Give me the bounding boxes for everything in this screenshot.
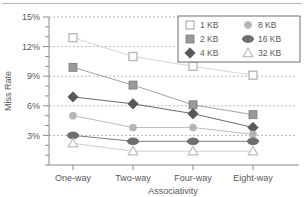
datapoint-32-kb-four-way — [188, 146, 198, 154]
legend-label-4-kb: 4 KB — [200, 48, 219, 58]
y-tick-label-6%: 6% — [27, 101, 40, 111]
series-8-kb — [73, 116, 253, 135]
series-markers-4-kb — [68, 92, 258, 133]
top-divider-rule — [2, 3, 302, 4]
filled-square-marker-icon — [186, 35, 194, 43]
series-2-kb — [73, 67, 253, 114]
series-line-2-kb — [73, 67, 253, 114]
datapoint-8-kb-eight-way — [249, 131, 256, 138]
datapoint-4-kb-one-way — [68, 92, 78, 102]
datapoint-2-kb-two-way — [129, 81, 137, 89]
legend-background — [178, 16, 300, 62]
datapoint-16-kb-four-way — [187, 138, 198, 145]
datapoint-1-kb-eight-way — [249, 71, 257, 79]
open-square-marker-icon — [186, 21, 194, 29]
y-axis-title: Miss Rate — [3, 71, 13, 111]
chart-legend: 1 KB2 KB4 KB8 KB16 KB32 KB — [178, 16, 300, 62]
series-16-kb — [73, 135, 253, 141]
legend-label-16-kb: 16 KB — [258, 34, 281, 44]
legend-label-2-kb: 2 KB — [200, 34, 219, 44]
x-tick-label-one-way: One-way — [55, 173, 92, 183]
legend-label-1-kb: 1 KB — [200, 20, 219, 30]
datapoint-1-kb-two-way — [129, 52, 137, 60]
series-markers-16-kb — [67, 132, 258, 145]
datapoint-8-kb-two-way — [129, 124, 136, 131]
datapoint-16-kb-eight-way — [247, 138, 258, 145]
y-tick-label-9%: 9% — [27, 71, 40, 81]
miss-rate-vs-associativity-chart: 15%12%9%6%3%One-wayTwo-wayFour-wayEight-… — [0, 0, 304, 197]
x-axis-title: Associativity — [148, 186, 198, 196]
x-tick-label-eight-way: Eight-way — [233, 173, 273, 183]
datapoint-2-kb-four-way — [189, 101, 197, 109]
datapoint-4-kb-four-way — [188, 108, 198, 118]
series-32-kb — [73, 143, 253, 151]
ellipse-marker-icon — [242, 36, 253, 43]
datapoint-32-kb-eight-way — [248, 146, 258, 154]
y-tick-label-3%: 3% — [27, 131, 40, 141]
datapoint-8-kb-one-way — [69, 112, 76, 119]
datapoint-8-kb-four-way — [189, 124, 196, 131]
series-markers-8-kb — [69, 112, 256, 138]
series-line-16-kb — [73, 135, 253, 141]
chart-figure: 15%12%9%6%3%One-wayTwo-wayFour-wayEight-… — [0, 0, 304, 197]
datapoint-16-kb-two-way — [127, 138, 138, 145]
series-4-kb — [73, 97, 253, 128]
datapoint-2-kb-eight-way — [249, 111, 257, 119]
datapoint-1-kb-one-way — [69, 34, 77, 42]
series-line-32-kb — [73, 143, 253, 151]
x-tick-label-two-way: Two-way — [115, 173, 151, 183]
datapoint-1-kb-four-way — [189, 62, 197, 70]
datapoint-32-kb-one-way — [68, 138, 78, 146]
y-tick-label-12%: 12% — [22, 42, 40, 52]
series-line-4-kb — [73, 97, 253, 128]
datapoint-2-kb-one-way — [69, 63, 77, 71]
legend-label-8-kb: 8 KB — [258, 20, 277, 30]
series-line-8-kb — [73, 116, 253, 135]
x-tick-label-four-way: Four-way — [174, 173, 212, 183]
circle-marker-icon — [244, 21, 251, 28]
legend-label-32-kb: 32 KB — [258, 48, 281, 58]
datapoint-4-kb-two-way — [128, 99, 138, 109]
y-tick-label-15%: 15% — [22, 12, 40, 22]
